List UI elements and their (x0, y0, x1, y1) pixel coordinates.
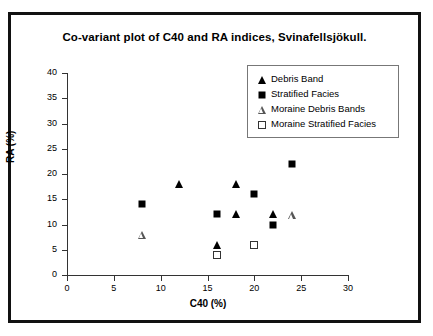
y-tick-label: 0 (29, 270, 57, 279)
x-tick-label: 30 (333, 284, 363, 293)
x-tick-mark (114, 276, 115, 281)
legend-item: Debris Band (255, 71, 391, 86)
marker-triangle-open-icon (138, 231, 146, 239)
marker-triangle-filled-icon (232, 210, 240, 218)
y-tick-label: 40 (29, 68, 57, 77)
legend-item: Moraine Debris Bands (255, 101, 391, 116)
marker-square-filled-icon (259, 91, 266, 98)
legend-swatch (255, 102, 269, 116)
legend-swatch (255, 87, 269, 101)
marker-square-open-icon (213, 251, 221, 259)
marker-triangle-filled-icon (232, 180, 240, 188)
x-tick-label: 10 (146, 284, 176, 293)
x-axis-label: C40 (%) (67, 298, 349, 309)
marker-triangle-filled-icon (269, 210, 277, 218)
marker-square-open-icon (250, 241, 258, 249)
legend-swatch (255, 117, 269, 131)
marker-square-filled-icon (138, 201, 145, 208)
x-tick-mark (208, 276, 209, 281)
x-tick-mark (254, 276, 255, 281)
y-tick-label: 15 (29, 194, 57, 203)
marker-triangle-open-icon (288, 211, 296, 219)
legend-label: Debris Band (269, 73, 323, 84)
legend-item: Stratified Facies (255, 86, 391, 101)
x-tick-mark (348, 276, 349, 281)
y-tick-label: 5 (29, 245, 57, 254)
x-tick-label: 25 (286, 284, 316, 293)
legend-item: Moraine Stratified Facies (255, 116, 391, 131)
legend-label: Moraine Stratified Facies (269, 118, 376, 129)
x-tick-mark (161, 276, 162, 281)
y-tick-label: 35 (29, 93, 57, 102)
marker-triangle-filled-icon (175, 180, 183, 188)
marker-square-open-icon (258, 121, 266, 129)
legend-label: Moraine Debris Bands (269, 103, 365, 114)
chart-legend: Debris BandStratified FaciesMoraine Debr… (247, 65, 399, 138)
x-tick-label: 0 (52, 284, 82, 293)
marker-square-filled-icon (270, 221, 277, 228)
x-tick-label: 20 (239, 284, 269, 293)
y-tick-label: 25 (29, 144, 57, 153)
marker-square-filled-icon (251, 191, 258, 198)
y-tick-label: 20 (29, 169, 57, 178)
y-tick-label: 10 (29, 220, 57, 229)
x-tick-label: 15 (193, 284, 223, 293)
x-tick-mark (301, 276, 302, 281)
x-tick-mark (67, 276, 68, 281)
marker-square-filled-icon (288, 160, 295, 167)
marker-square-filled-icon (213, 211, 220, 218)
legend-label: Stratified Facies (269, 88, 339, 99)
chart-title: Co-variant plot of C40 and RA indices, S… (11, 31, 418, 43)
marker-triangle-filled-icon (258, 76, 266, 84)
figure-frame: Co-variant plot of C40 and RA indices, S… (8, 12, 421, 323)
marker-triangle-open-icon (258, 106, 266, 114)
x-tick-label: 5 (99, 284, 129, 293)
y-axis-label: RA (%) (5, 131, 16, 163)
marker-triangle-filled-icon (213, 241, 221, 249)
legend-swatch (255, 72, 269, 86)
y-tick-label: 30 (29, 119, 57, 128)
